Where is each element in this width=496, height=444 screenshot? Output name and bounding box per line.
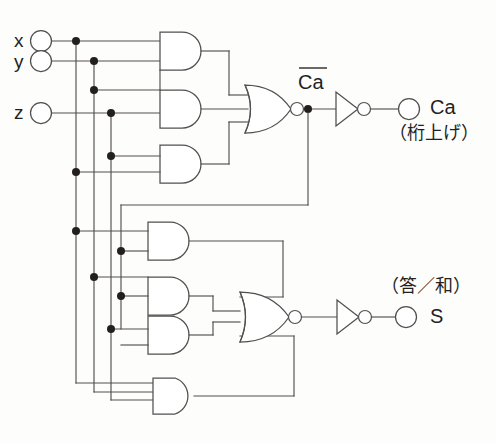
input-label-z: z (14, 103, 24, 122)
output-sublabel-Ca: （桁上げ） (389, 124, 479, 142)
inverter-carry[interactable] (336, 92, 371, 126)
cabar-label: Ca (298, 72, 324, 92)
junction-x-and3 (72, 168, 80, 176)
and-gate-4[interactable] (148, 222, 189, 260)
junction-cabar-and4 (117, 247, 125, 255)
junction-y-and5 (90, 273, 98, 281)
junction-cabar (304, 105, 312, 113)
circuit-svg-canvas (0, 0, 496, 444)
inverter-sum[interactable] (337, 300, 372, 334)
nor-gate-carry[interactable] (245, 85, 304, 133)
output-sublabel-S: （答／和） (381, 277, 471, 295)
input-terminal-x[interactable] (31, 31, 161, 52)
and-gate-5[interactable] (148, 277, 189, 315)
bus-y (94, 61, 153, 392)
junction-y-and2 (90, 86, 98, 94)
input-terminal-z[interactable] (31, 103, 161, 124)
junction-x-and4 (72, 227, 80, 235)
output-terminal-S[interactable] (396, 307, 417, 328)
junction-y-top (90, 57, 98, 65)
junction-z-and3 (107, 152, 115, 160)
logic-circuit-diagram: x y z Ca Ca （桁上げ） （答／和） S (0, 0, 496, 444)
output-label-S: S (430, 306, 443, 326)
and-gate-2[interactable] (160, 90, 201, 128)
junction-x-top (72, 37, 80, 45)
and-gate-6[interactable] (148, 316, 189, 354)
junction-z-top (107, 109, 115, 117)
nor-gate-sum[interactable] (240, 292, 302, 342)
output-label-Ca: Ca (430, 97, 456, 117)
junction-cabar-and5 (117, 292, 125, 300)
bus-x (76, 41, 153, 383)
input-label-y: y (14, 52, 24, 71)
output-terminal-Ca[interactable] (399, 99, 420, 120)
input-label-x: x (14, 31, 24, 50)
junction-z-and6 (107, 325, 115, 333)
and-gate-1[interactable] (160, 32, 201, 70)
and-gate-7[interactable] (153, 378, 188, 414)
and-gate-3[interactable] (160, 145, 201, 183)
